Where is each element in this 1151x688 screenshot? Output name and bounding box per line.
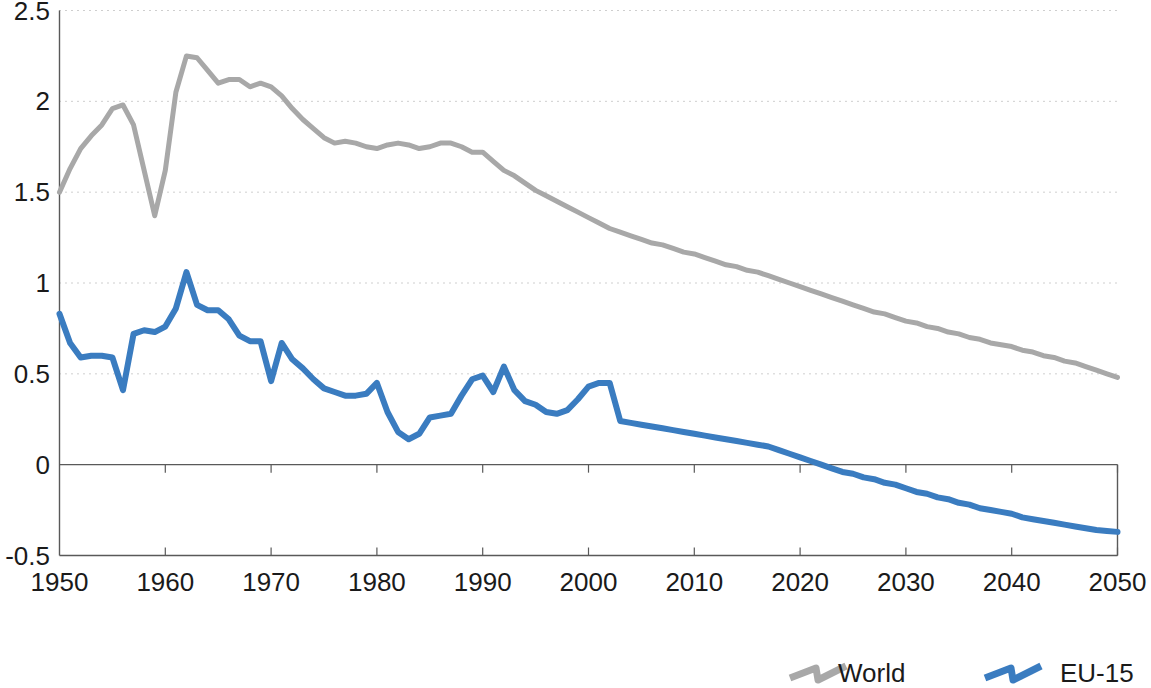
- x-tick-label: 2020: [750, 569, 850, 595]
- x-tick-label: 2010: [644, 569, 744, 595]
- series-line-world: [60, 56, 1118, 378]
- y-tick-label: 0: [0, 452, 50, 478]
- gridlines-group: [60, 11, 1118, 374]
- y-tick-label: 0.5: [0, 361, 50, 387]
- series-line-eu-15: [60, 272, 1118, 532]
- y-tick-label: 1: [0, 270, 50, 296]
- chart-container: 2.521.510.50-0.5 19501960197019801990200…: [0, 0, 1151, 688]
- x-tick-label: 1990: [433, 569, 533, 595]
- legend-marker-eu-15: [985, 666, 1041, 680]
- x-tick-marks-group: [165, 465, 1117, 556]
- x-tick-label: 2000: [539, 569, 639, 595]
- x-tick-label: 2040: [962, 569, 1062, 595]
- x-tick-label: 1970: [221, 569, 321, 595]
- y-tick-label: 2: [0, 88, 50, 114]
- x-tick-label: 1950: [10, 569, 110, 595]
- y-tick-label: 2.5: [0, 0, 50, 24]
- y-tick-label: -0.5: [0, 543, 50, 569]
- x-tick-label: 2030: [856, 569, 956, 595]
- y-tick-label: 1.5: [0, 179, 50, 205]
- legend-label-eu15: EU-15: [1060, 660, 1134, 686]
- x-tick-label: 1960: [115, 569, 215, 595]
- series-lines-group: [60, 56, 1118, 532]
- x-tick-label: 2050: [1068, 569, 1151, 595]
- x-tick-label: 1980: [327, 569, 427, 595]
- legend-label-world: World: [838, 660, 905, 686]
- legend-markers-group: [790, 666, 1041, 680]
